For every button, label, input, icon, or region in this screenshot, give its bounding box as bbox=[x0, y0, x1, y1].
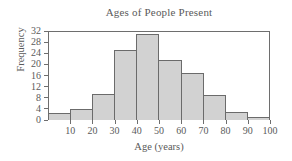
y-tick-mark bbox=[44, 120, 48, 121]
y-tick-label: 28 bbox=[31, 37, 44, 47]
y-tick-mark bbox=[44, 86, 48, 87]
y-tick-label: 12 bbox=[31, 82, 44, 92]
x-tick-mark bbox=[159, 120, 160, 124]
y-tick-mark bbox=[44, 42, 48, 43]
y-tick-mark bbox=[44, 31, 48, 32]
x-tick-mark bbox=[270, 120, 271, 124]
histogram-bar bbox=[48, 113, 71, 120]
histogram-bar bbox=[225, 112, 248, 120]
x-tick-label: 60 bbox=[169, 125, 193, 136]
x-tick-label: 30 bbox=[103, 125, 127, 136]
histogram-bar bbox=[181, 73, 204, 120]
x-tick-mark bbox=[137, 120, 138, 124]
bars-group bbox=[48, 31, 270, 120]
y-tick-mark bbox=[44, 108, 48, 109]
y-tick-mark bbox=[44, 97, 48, 98]
x-tick-label: 100 bbox=[258, 125, 282, 136]
x-tick-mark bbox=[248, 120, 249, 124]
histogram-bar bbox=[158, 60, 181, 120]
histogram-bar bbox=[70, 109, 93, 120]
y-tick-label: 4 bbox=[36, 104, 44, 114]
x-tick-label: 80 bbox=[214, 125, 238, 136]
histogram-chart: Ages of People Present Frequency 0481216… bbox=[0, 0, 292, 161]
y-tick-label: 16 bbox=[31, 71, 44, 81]
y-tick-label: 0 bbox=[36, 115, 44, 125]
x-axis-label: Age (years) bbox=[48, 141, 270, 152]
y-tick-label: 32 bbox=[31, 26, 44, 36]
y-tick-mark bbox=[44, 75, 48, 76]
x-tick-mark bbox=[115, 120, 116, 124]
x-tick-label: 70 bbox=[191, 125, 215, 136]
histogram-bar bbox=[114, 50, 137, 120]
x-tick-mark bbox=[203, 120, 204, 124]
y-tick-mark bbox=[44, 64, 48, 65]
x-tick-mark bbox=[92, 120, 93, 124]
y-axis-label: Frequency bbox=[15, 10, 26, 90]
chart-title: Ages of People Present bbox=[48, 6, 270, 18]
histogram-bar bbox=[203, 95, 226, 120]
y-tick-mark bbox=[44, 53, 48, 54]
x-tick-label: 40 bbox=[125, 125, 149, 136]
x-tick-label: 20 bbox=[80, 125, 104, 136]
histogram-bar bbox=[136, 34, 159, 120]
x-tick-mark bbox=[226, 120, 227, 124]
y-tick-label: 20 bbox=[31, 59, 44, 69]
y-tick-label: 24 bbox=[31, 48, 44, 58]
histogram-bar bbox=[92, 94, 115, 120]
x-tick-mark bbox=[181, 120, 182, 124]
x-tick-label: 50 bbox=[147, 125, 171, 136]
histogram-bar bbox=[247, 117, 270, 120]
y-tick-label: 8 bbox=[36, 93, 44, 103]
x-tick-label: 10 bbox=[58, 125, 82, 136]
x-tick-label: 90 bbox=[236, 125, 260, 136]
x-tick-mark bbox=[70, 120, 71, 124]
